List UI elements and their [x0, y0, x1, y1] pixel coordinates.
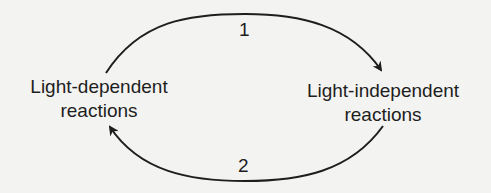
edge-label-1: 1 [239, 20, 250, 40]
node-line1: Light-independent [294, 79, 472, 103]
node-line2: reactions [14, 99, 184, 123]
node-line2: reactions [294, 103, 472, 127]
light-independent-node: Light-independent reactions [294, 79, 472, 127]
light-dependent-node: Light-dependent reactions [14, 75, 184, 123]
edge-label-2: 2 [238, 156, 249, 176]
node-line1: Light-dependent [14, 75, 184, 99]
